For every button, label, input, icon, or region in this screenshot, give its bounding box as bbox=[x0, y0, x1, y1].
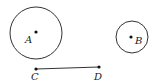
circle-a-group: A bbox=[10, 7, 62, 59]
geometry-diagram: A B C D bbox=[0, 0, 154, 81]
point-d bbox=[97, 65, 100, 68]
label-b: B bbox=[134, 35, 142, 46]
segment-cd-group: C D bbox=[31, 65, 102, 81]
circle-b-group: B bbox=[116, 21, 148, 53]
segment-cd bbox=[36, 67, 99, 69]
center-point-a bbox=[34, 30, 37, 33]
center-point-b bbox=[129, 35, 132, 38]
label-d: D bbox=[93, 71, 102, 81]
label-c: C bbox=[31, 71, 39, 81]
label-a: A bbox=[24, 34, 32, 45]
